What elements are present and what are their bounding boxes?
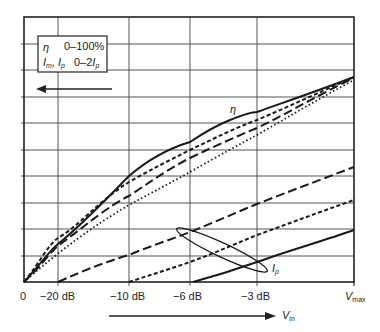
legend-eta-symbol: η bbox=[43, 41, 49, 53]
ip-label: Ip bbox=[272, 262, 279, 276]
long-dash-upper-curve bbox=[24, 78, 354, 282]
ip-long-dash-curve bbox=[58, 167, 354, 282]
decreasing-arrow bbox=[36, 85, 112, 93]
chart: η Ip η 0–100% Im, Ip 0–2Ip 0 −20 dB −10 … bbox=[0, 0, 380, 332]
x-tick-3db: −3 dB bbox=[241, 290, 270, 302]
short-dash-im-curve bbox=[24, 77, 354, 282]
vin-axis-arrow bbox=[109, 312, 276, 320]
x-tick-10db: −10 dB bbox=[110, 290, 145, 302]
vin-label: Vin bbox=[282, 309, 295, 322]
x-tick-0: 0 bbox=[20, 290, 26, 302]
legend: η 0–100% Im, Ip 0–2Ip bbox=[38, 36, 107, 72]
curves bbox=[24, 77, 354, 282]
legend-eta-range: 0–100% bbox=[64, 40, 105, 52]
x-tick-vmax: Vmax bbox=[345, 290, 366, 303]
eta-curve bbox=[24, 77, 354, 282]
eta-curve-label: η bbox=[230, 103, 236, 115]
x-tick-6db: −6 dB bbox=[173, 290, 202, 302]
x-tick-20db: −20 dB bbox=[40, 290, 75, 302]
dotted-curve bbox=[24, 80, 354, 282]
